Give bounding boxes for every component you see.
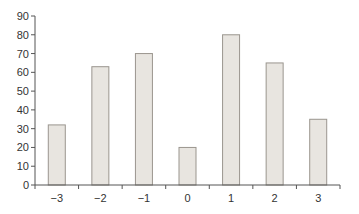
bar-6 xyxy=(310,119,327,185)
y-tick-label: 50 xyxy=(17,85,29,97)
x-tick-label: 2 xyxy=(272,192,278,204)
x-tick-label: 3 xyxy=(315,192,321,204)
x-tick-label: 0 xyxy=(184,192,190,204)
bar-3 xyxy=(179,147,196,185)
y-tick-label: 60 xyxy=(17,66,29,78)
x-tick-label: −3 xyxy=(51,192,64,204)
y-tick-label: 30 xyxy=(17,123,29,135)
x-tick-label: −2 xyxy=(94,192,107,204)
bar-1 xyxy=(92,67,109,185)
x-tick-label: −1 xyxy=(138,192,151,204)
bars xyxy=(48,35,326,185)
y-tick-label: 0 xyxy=(23,179,29,191)
y-tick-label: 40 xyxy=(17,104,29,116)
bar-4 xyxy=(223,35,240,185)
bar-0 xyxy=(48,125,65,185)
y-tick-label: 90 xyxy=(17,10,29,22)
y-tick-label: 80 xyxy=(17,29,29,41)
bar-2 xyxy=(135,54,152,185)
x-tick-label: 1 xyxy=(228,192,234,204)
bar-5 xyxy=(266,63,283,185)
x-axis-ticks: −3−2−10123 xyxy=(35,185,340,204)
y-tick-label: 70 xyxy=(17,48,29,60)
y-tick-label: 10 xyxy=(17,160,29,172)
y-axis-ticks: 0102030405060708090 xyxy=(17,10,35,191)
y-tick-label: 20 xyxy=(17,141,29,153)
bar-chart: 0102030405060708090 −3−2−10123 xyxy=(0,0,359,214)
